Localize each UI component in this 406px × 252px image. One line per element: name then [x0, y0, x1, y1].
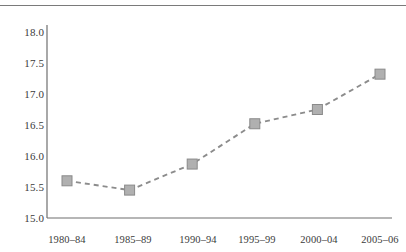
data-point-marker [312, 105, 322, 115]
data-point-markers [62, 69, 385, 195]
data-point-marker [187, 159, 197, 169]
chart-figure: 18.0 17.5 17.0 16.5 16.0 15.5 15.0 1980–… [0, 0, 406, 252]
data-point-marker [125, 185, 135, 195]
data-point-marker [250, 119, 260, 129]
data-point-marker [62, 176, 72, 186]
line-chart-plot [0, 0, 406, 252]
data-point-marker [375, 69, 385, 79]
data-series-line [67, 74, 380, 190]
